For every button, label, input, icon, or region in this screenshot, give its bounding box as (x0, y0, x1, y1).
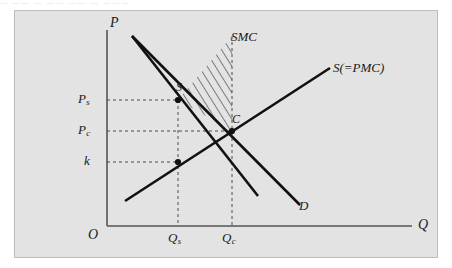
y-tick-label-k: k (84, 154, 90, 169)
y-tick-label-ps: Ps (78, 92, 90, 107)
y-tick-k-main: k (84, 153, 90, 168)
y-tick-ps-sub: s (86, 97, 90, 107)
y-tick-pc-main: P (78, 122, 86, 137)
plot-graphics (0, 0, 452, 268)
origin-label: O (88, 228, 98, 242)
point-dot-C (229, 128, 235, 134)
smc-curve-label: SMC (231, 30, 257, 43)
point-dot-S (175, 97, 181, 103)
x-tick-label-qs: Qs (168, 231, 181, 246)
x-tick-qc-main: Q (222, 230, 231, 245)
x-tick-qs-sub: s (177, 236, 181, 246)
y-tick-label-pc: Pc (78, 123, 90, 138)
point-label-C: C (232, 113, 240, 125)
x-tick-qc-sub: c (231, 236, 235, 246)
point-dot-k-on-pmc (175, 159, 181, 165)
y-tick-ps-main: P (78, 91, 86, 106)
figure-root: — —— — —— —— — ——— (0, 0, 452, 268)
welfare-loss-hatched-region (178, 36, 232, 131)
y-tick-pc-sub: c (86, 128, 90, 138)
demand-curve-label: D (299, 199, 308, 212)
x-axis-label: Q (418, 218, 428, 232)
x-tick-qs-main: Q (168, 230, 177, 245)
y-axis-label: P (110, 16, 119, 30)
x-tick-label-qc: Qc (222, 231, 236, 246)
point-label-S: S (176, 81, 182, 93)
supply-pmc-curve-label: S(=PMC) (333, 61, 384, 74)
